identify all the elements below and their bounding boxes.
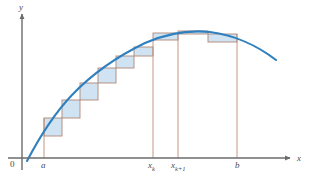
riemann-rectangles-outline (44, 31, 237, 136)
tick-label-a: a (41, 161, 46, 170)
riemann-rect (134, 47, 153, 56)
tick-label-xk-plus-1: xk+1 (171, 161, 186, 172)
x-axis-label: x (297, 154, 301, 163)
tick-label-xk: xk (148, 161, 155, 172)
tick-label-xk-sub: k (152, 165, 155, 172)
origin-label: 0 (10, 160, 15, 169)
tick-label-xk-plus-1-sub: k+1 (175, 165, 186, 172)
y-axis-label: y (19, 3, 23, 12)
tick-label-b: b (235, 161, 240, 170)
figure-canvas (0, 0, 311, 188)
riemann-sum-figure: y 0 a xk xk+1 b x (0, 0, 311, 188)
